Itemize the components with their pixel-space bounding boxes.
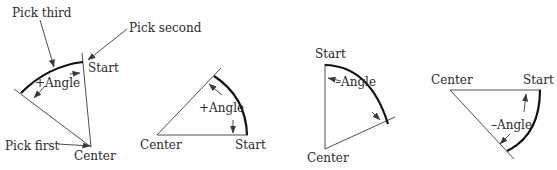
angle-arrow-end [209,84,222,95]
center-label: Center [74,149,116,163]
angle-label: +Angle [199,101,244,115]
angle-arrow-start [70,73,80,74]
pick-third-label: Pick third [12,6,72,20]
diagram-negative-angle-horizontal: Center Start –Angle [431,73,554,159]
pick-third-arrow [40,20,54,67]
angle-label: –Angle [335,75,376,89]
angle-label: +Angle [35,76,80,90]
diagram-positive-angle: +Angle Center Start [140,68,266,152]
center-label: Center [307,151,349,165]
pick-second-arrow [88,29,127,60]
diagram-negative-angle-vertical: Start –Angle Center [307,47,395,165]
angle-label: –Angle [491,118,532,132]
angle-arrow-end [500,134,510,144]
start-label: Start [88,61,119,75]
angle-arrow-end [372,112,380,120]
pick-second-label: Pick second [129,21,202,35]
angle-arrow-start [524,94,526,112]
start-label: Start [235,138,266,152]
pick-first-label: Pick first [5,139,60,153]
arc-angle-diagram: Pick third Pick second Start +Angle Pick… [0,0,557,170]
end-radius-line [325,117,395,149]
start-label: Start [315,47,346,61]
start-label: Start [523,73,554,87]
pick-first-arrow [58,144,90,146]
center-label: Center [140,138,182,152]
center-label: Center [431,73,473,87]
arc [325,65,388,124]
